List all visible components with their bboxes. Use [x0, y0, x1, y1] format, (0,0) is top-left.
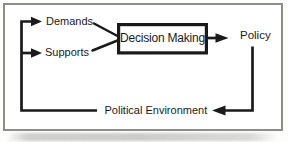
- political-environment-label: Political Environment: [105, 104, 208, 116]
- policy-label: Policy: [240, 29, 271, 41]
- diagram-page: Demands Supports Decision Making Policy …: [0, 0, 288, 142]
- supports-to-decision-line: [93, 41, 118, 51]
- arrowhead-right-supports-icon: [31, 48, 42, 57]
- arrowhead-right-demands-icon: [31, 17, 42, 26]
- political-system-diagram: Demands Supports Decision Making Policy …: [0, 0, 288, 142]
- decision-making-label: Decision Making: [120, 31, 205, 45]
- policy-to-environment-line: [225, 47, 253, 111]
- supports-label: Supports: [45, 46, 90, 58]
- demands-to-decision-line: [94, 24, 118, 37]
- arrowhead-left-environment-icon: [212, 106, 226, 116]
- demands-label: Demands: [46, 15, 94, 27]
- scan-shadow: [6, 133, 278, 141]
- feedback-loop-line: [22, 22, 98, 111]
- arrowhead-right-policy-icon: [216, 33, 229, 43]
